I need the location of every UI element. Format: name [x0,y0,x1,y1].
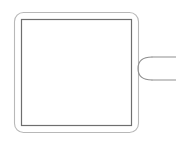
diagram-canvas [0,0,176,147]
diagram-svg [0,0,176,147]
inner-square-fill [22,20,132,126]
